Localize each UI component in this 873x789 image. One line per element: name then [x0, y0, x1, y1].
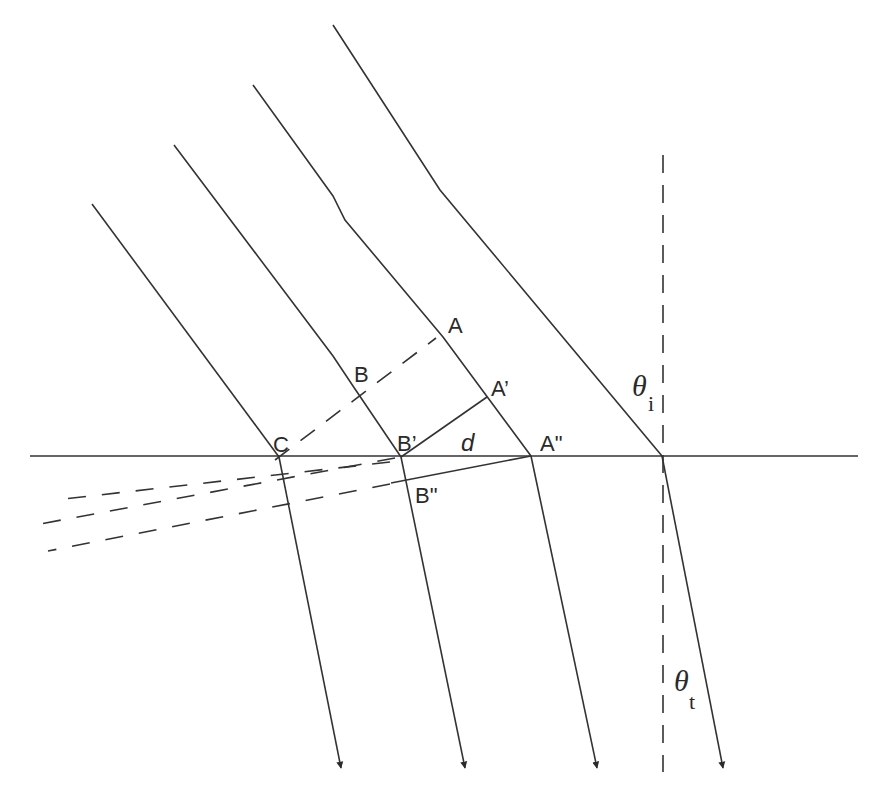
label-A-double-prime: A" — [540, 431, 562, 456]
label-B-prime: B’ — [397, 431, 417, 456]
theta-i-subscript: i — [648, 391, 654, 416]
theta-t-symbol: θ — [674, 664, 689, 697]
incident-ray-1 — [92, 204, 279, 457]
refracted-wavefront-dashed-3 — [48, 484, 390, 551]
label-d: d — [461, 429, 475, 456]
theta-t-subscript: t — [689, 689, 695, 714]
incident-ray-2 — [174, 145, 401, 457]
refraction-diagram: A B C A’ B’ A" B" d θ i θ t — [0, 0, 873, 789]
label-A: A — [448, 313, 463, 338]
incident-ray-3 — [253, 85, 531, 456]
label-B-double-prime: B" — [415, 483, 437, 508]
label-C: C — [273, 432, 289, 457]
theta-i-symbol: θ — [632, 369, 647, 402]
refracted-wavefront-solid — [391, 456, 531, 483]
refracted-ray-3 — [531, 456, 597, 768]
label-B: B — [354, 362, 369, 387]
label-A-prime: A’ — [491, 376, 509, 401]
refracted-ray-4 — [662, 456, 723, 768]
